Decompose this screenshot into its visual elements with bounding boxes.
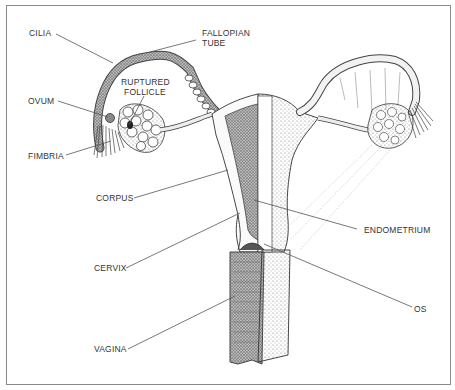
left-ovary <box>118 104 212 152</box>
label-fallopian-tube-line1: FALLOPIAN <box>202 28 250 38</box>
label-cilia: CILIA <box>29 28 51 38</box>
right-ovary <box>368 104 413 149</box>
label-cervix: CERVIX <box>94 263 127 273</box>
label-fimbria: FIMBRIA <box>28 151 64 161</box>
uterus <box>212 94 318 252</box>
vagina <box>230 250 290 364</box>
label-ruptured-follicle-line2: FOLLICLE <box>124 87 166 97</box>
ovum <box>106 114 115 123</box>
label-corpus: CORPUS <box>96 193 134 203</box>
label-ruptured-follicle-line1: RUPTURED <box>121 77 170 87</box>
anatomy-illustration <box>0 0 455 390</box>
label-vagina: VAGINA <box>94 344 127 354</box>
label-os: OS <box>414 304 427 314</box>
label-endometrium: ENDOMETRIUM <box>364 225 430 235</box>
label-fallopian-tube-line2: TUBE <box>202 38 225 48</box>
label-ovum: OVUM <box>28 96 54 106</box>
